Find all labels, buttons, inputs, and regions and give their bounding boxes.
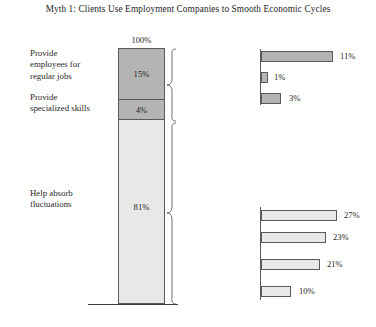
stack-segment-specialized-skills-value: 4% [136,105,147,115]
bottom-row-2-bar [261,232,326,243]
label-specialized-skills-line2: specialized skills [30,103,118,114]
label-specialized-skills: Provide specialized skills [30,92,118,115]
bottom-row-3-value: 21% [327,259,343,269]
baseline-rule [88,304,178,305]
top-row-3-value: 3% [289,93,300,103]
bottom-row-2-value: 23% [333,232,349,242]
label-specialized-skills-line1: Provide [30,92,118,103]
stacked-bar: 15% 4% 81% [118,48,165,304]
stack-segment-regular-jobs: 15% [118,48,165,100]
label-regular-jobs-line3: regular jobs [30,71,118,82]
label-regular-jobs-line1: Provide [30,48,118,59]
top-row-1-bar [261,51,333,62]
stack-segment-regular-jobs-value: 15% [134,69,150,79]
bottom-row-1-bar [261,210,337,221]
top-row-2-value: 1% [274,72,285,82]
chart-title: Myth 1: Clients Use Employment Companies… [0,4,376,14]
label-regular-jobs: Provide employees for regular jobs [30,48,118,82]
brace-top-group [166,48,178,122]
top-row-2-bar [261,72,268,83]
label-absorb-fluctuations-line1: Help absorb [30,188,118,199]
stack-segment-specialized-skills: 4% [118,99,165,120]
bottom-row-4-value: 10% [299,286,315,296]
bottom-row-1-value: 27% [344,210,360,220]
top-row-1-value: 11% [340,51,355,61]
label-regular-jobs-line2: employees for [30,59,118,70]
stack-segment-absorb-fluctuations: 81% [118,119,165,304]
top-row-3-bar [261,93,281,104]
stack-segment-absorb-fluctuations-value: 81% [134,202,150,212]
bottom-row-3-bar [261,259,320,270]
stacked-bar-total-label: 100% [118,35,165,45]
bottom-row-4-bar [261,286,291,297]
brace-bottom-group [166,122,178,305]
figure-myth-1: Myth 1: Clients Use Employment Companies… [0,0,376,327]
label-absorb-fluctuations-line2: fluctuations [30,199,118,210]
label-absorb-fluctuations: Help absorb fluctuations [30,188,118,211]
